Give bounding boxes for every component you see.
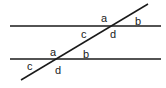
bottom-angle-d-label: d [55, 64, 61, 76]
bottom-angle-a-label: a [50, 46, 57, 58]
top-angle-a-label: a [101, 12, 108, 24]
transversal-line [21, 4, 148, 80]
top-angle-b-label: b [135, 15, 141, 27]
top-angle-c-label: c [81, 28, 87, 40]
bottom-angle-c-label: c [27, 60, 33, 72]
top-angle-d-label: d [110, 28, 116, 40]
bottom-angle-b-label: b [83, 48, 89, 60]
parallel-lines-diagram: a b c d a b c d [0, 0, 166, 88]
